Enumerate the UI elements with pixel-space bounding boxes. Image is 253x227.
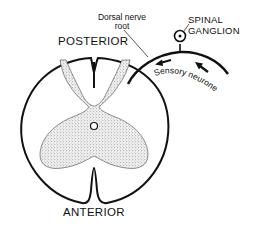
spinal-cord-diagram: Sensory neurone Dorsal nerve root SPINAL… [0, 0, 253, 227]
anterior-label: ANTERIOR [63, 207, 125, 219]
dorsal-label-line2: root [94, 22, 150, 31]
central-canal [91, 123, 98, 130]
posterior-label: POSTERIOR [58, 36, 128, 48]
spinal-ganglion-label: SPINAL GANGLION [188, 15, 240, 37]
arrow-icon [195, 62, 208, 72]
sensory-neurone-label: Sensory neurone [153, 65, 220, 94]
ganglion-nucleus [179, 35, 182, 38]
spinal-label-line2: GANGLION [188, 26, 240, 37]
dorsal-nerve-root-label: Dorsal nerve root [94, 13, 150, 31]
arrow-icon [155, 60, 171, 67]
